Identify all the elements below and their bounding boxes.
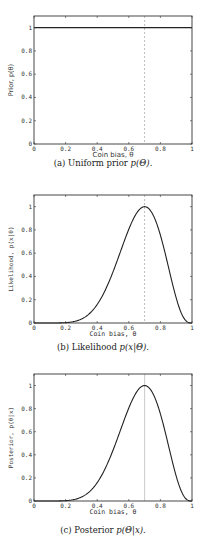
axes-box: [34, 195, 192, 323]
y-axis-label: Posterior, p(θ|x): [7, 407, 15, 468]
x-axis-label: Coin bias, θ: [90, 330, 137, 338]
caption-a: (a) Uniform prior p(Θ).: [0, 158, 206, 168]
caption-b: (b) Likelihood p(x|Θ).: [0, 342, 206, 352]
x-tick-label: 0.2: [60, 145, 71, 152]
x-tick-label: 0.2: [60, 502, 71, 509]
y-tick-label: 0.8: [21, 47, 32, 54]
x-axis-label: Coin bias, θ: [90, 508, 137, 516]
y-tick-label: 0: [28, 140, 32, 147]
caption-b-text: (b) Likelihood: [57, 342, 120, 352]
caption-c-math: p(Θ|x).: [116, 525, 145, 535]
y-tick-label: 0.2: [21, 296, 32, 303]
y-tick-label: 0.6: [21, 70, 32, 77]
caption-b-math: p(x|Θ).: [120, 342, 149, 352]
y-tick-label: 0: [28, 319, 32, 326]
x-tick-label: 0: [32, 324, 36, 331]
y-tick-label: 1: [28, 24, 32, 31]
axes-box: [34, 374, 192, 501]
caption-c-text: (c) Posterior: [60, 525, 116, 535]
y-tick-label: 1: [28, 203, 32, 210]
likelihood-curve: [34, 207, 192, 323]
y-tick-label: 0.4: [21, 272, 32, 279]
x-tick-label: 1: [190, 502, 194, 509]
x-tick-label: 0: [32, 145, 36, 152]
y-tick-label: 0.8: [21, 405, 32, 412]
y-tick-label: 0.4: [21, 93, 32, 100]
y-tick-label: 0.2: [21, 117, 32, 124]
y-tick-label: 0.8: [21, 226, 32, 233]
y-tick-label: 1: [28, 382, 32, 389]
axes-box: [34, 16, 192, 144]
y-tick-label: 0.4: [21, 451, 32, 458]
x-tick-label: 0.8: [155, 502, 166, 509]
y-tick-label: 0.2: [21, 474, 32, 481]
x-tick-label: 0.2: [60, 324, 71, 331]
x-tick-label: 1: [190, 324, 194, 331]
x-tick-label: 0: [32, 502, 36, 509]
y-tick-label: 0: [28, 497, 32, 504]
y-tick-label: 0.6: [21, 249, 32, 256]
caption-c: (c) Posterior p(Θ|x).: [0, 525, 206, 535]
caption-a-math: p(Θ).: [131, 158, 153, 168]
x-tick-label: 0.8: [155, 324, 166, 331]
x-tick-label: 0.8: [155, 145, 166, 152]
y-axis-label: Likelihood, p(x|θ): [7, 226, 15, 291]
caption-a-text: (a) Uniform prior: [54, 158, 131, 168]
y-tick-label: 0.6: [21, 428, 32, 435]
figure: 00.20.40.60.8100.20.40.60.81Coin bias, θ…: [0, 0, 206, 549]
x-tick-label: 1: [190, 145, 194, 152]
posterior-curve: [34, 386, 192, 501]
y-axis-label: Prior, p(θ): [7, 64, 15, 96]
